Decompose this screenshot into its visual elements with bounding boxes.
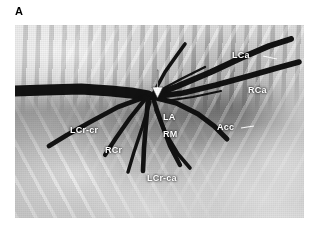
figure-panel: A [0,0,317,229]
film-grain [15,25,304,218]
label-accessory-bronchus: Acc [217,122,234,132]
label-right-cranial-bronchus: RCr [105,145,122,155]
label-left-cranial-bronchus: LA [163,112,175,122]
label-left-caudal-bronchus: LCa [232,50,250,60]
label-right-caudal-bronchus: RCa [248,85,267,95]
label-right-middle-bronchus: RM [163,129,177,139]
radiograph-image [15,25,304,218]
label-left-cranial-cranial-bronchus: LCr-cr [70,125,98,135]
label-left-cranial-caudal-bronchus: LCr-ca [147,173,177,183]
panel-label-a: A [15,5,23,17]
